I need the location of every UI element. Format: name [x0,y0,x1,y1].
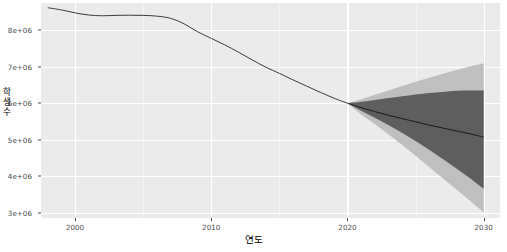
x-axis-tick-label: 2010 [202,223,220,232]
x-axis-tick-label: 2020 [338,223,356,232]
y-axis-title: 학 생 수 [1,87,13,117]
plot-panel [41,3,500,218]
y-axis-tick-mark [38,30,41,31]
y-axis-title-char-1: 학 [1,87,13,97]
x-axis-tick-label: 2000 [66,223,84,232]
y-axis-tick-mark [38,212,41,213]
chart-data-layer [41,3,500,218]
x-axis-tick-mark [484,218,485,221]
x-axis-tick-mark [347,218,348,221]
x-axis-tick-label: 2030 [474,223,492,232]
y-axis-tick-label: 7e+06 [8,62,32,71]
y-axis-tick-mark [38,139,41,140]
y-axis-tick-label: 8e+06 [8,26,32,35]
y-axis-tick-mark [38,103,41,104]
historical-trend-line [48,8,348,103]
y-axis-tick-mark [38,66,41,67]
y-axis-tick-mark [38,176,41,177]
y-axis-title-char-2: 생 [1,97,13,107]
x-axis-tick-mark [211,218,212,221]
x-axis-tick-mark [75,218,76,221]
y-axis-tick-label: 5e+06 [8,135,32,144]
y-axis-tick-label: 4e+06 [8,172,32,181]
chart-container: 3e+064e+065e+066e+067e+068e+06 학 생 수 200… [0,0,507,252]
x-axis-title: 연도 [0,232,507,246]
y-axis-title-char-3: 수 [1,107,13,117]
y-axis-tick-label: 3e+06 [8,208,32,217]
